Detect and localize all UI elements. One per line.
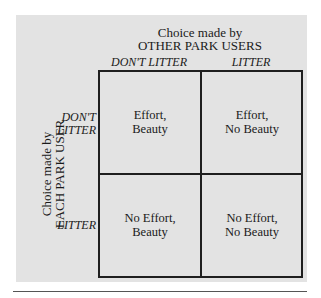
column-header-litter: LITTER xyxy=(200,56,302,69)
cell-line: No Effort, xyxy=(226,211,277,225)
cell-dont-litter-dont-litter: Effort, Beauty xyxy=(100,72,200,172)
cell-line: Beauty xyxy=(132,122,167,136)
payoff-matrix: Effort, Beauty Effort, No Beauty No Effo… xyxy=(98,70,303,278)
row-header-dont-litter: DON'T LITTER xyxy=(50,111,96,137)
row-axis-title: Choice made by EACH PARK USER xyxy=(40,69,66,279)
row-header-line: LITTER xyxy=(50,219,96,232)
row-axis-title-line2: EACH PARK USER xyxy=(53,69,66,279)
cell-line: No Effort, xyxy=(124,211,175,225)
cell-litter-litter: No Effort, No Beauty xyxy=(202,175,302,275)
row-header-line: LITTER xyxy=(50,124,96,137)
column-header-dont-litter: DON'T LITTER xyxy=(98,56,200,69)
column-axis-title: Choice made by OTHER PARK USERS xyxy=(98,26,302,52)
cell-line: Beauty xyxy=(132,225,167,239)
bottom-rule xyxy=(13,291,307,292)
cell-litter-dont-litter: No Effort, Beauty xyxy=(100,175,200,275)
cell-line: No Beauty xyxy=(225,225,279,239)
column-axis-title-line2: OTHER PARK USERS xyxy=(98,39,302,52)
cell-line: Effort, xyxy=(236,108,269,122)
row-header-litter: LITTER xyxy=(50,219,96,232)
cell-dont-litter-litter: Effort, No Beauty xyxy=(202,72,302,172)
cell-line: No Beauty xyxy=(225,122,279,136)
cell-line: Effort, xyxy=(134,108,167,122)
